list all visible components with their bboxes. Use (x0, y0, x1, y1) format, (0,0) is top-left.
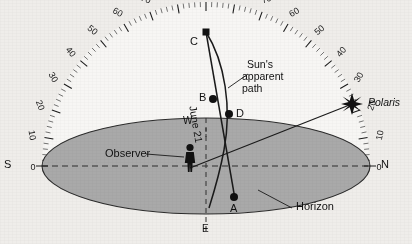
label-east: E (202, 224, 209, 235)
label-horizon: Horizon (296, 201, 334, 213)
protractor-label-zero: 0 (30, 162, 35, 172)
label-point-a: A (230, 203, 237, 215)
label-point-d: D (236, 108, 244, 120)
label-sun-path-line2: apparent (242, 71, 283, 82)
label-south: S (4, 159, 11, 171)
label-point-b: B (199, 92, 206, 104)
label-observer: Observer (105, 148, 150, 160)
point-marker-d (225, 110, 233, 118)
diagram-svg: 102030405060708090807060504030201000 (0, 0, 412, 244)
point-marker-b (209, 95, 217, 103)
label-north: N (381, 159, 389, 171)
label-polaris: Polaris (368, 97, 400, 108)
point-marker-a (230, 193, 238, 201)
point-marker-c (203, 29, 210, 36)
label-point-c: C (190, 36, 198, 48)
protractor-label: 10 (27, 129, 39, 141)
label-sun-path-line1: Sun's (247, 59, 273, 70)
diagram-canvas: 102030405060708090807060504030201000 (0, 0, 412, 244)
label-sun-path-line3: path (242, 83, 262, 94)
protractor-label: 10 (374, 129, 386, 141)
